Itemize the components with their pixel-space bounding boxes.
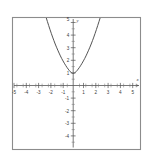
y-tick-label: 2 bbox=[67, 58, 70, 63]
x-tick-label: -1 bbox=[61, 90, 66, 95]
coordinate-plane-svg: -5 -4 -3 -2 -1 1 2 3 4 5 5 4 3 2 1 -1 -2… bbox=[0, 0, 153, 166]
x-tick-label: 4 bbox=[119, 90, 122, 95]
y-tick-label: -1 bbox=[65, 96, 70, 101]
y-tick-label: 3 bbox=[67, 46, 70, 51]
x-tick-label: -3 bbox=[37, 90, 42, 95]
y-tick-label: -3 bbox=[65, 121, 70, 126]
plot-frame bbox=[13, 18, 141, 150]
x-tick-label: 2 bbox=[95, 90, 98, 95]
x-tick-label: -4 bbox=[24, 90, 29, 95]
y-axis-top-label: 5 bbox=[67, 17, 70, 22]
x-tick-label: 1 bbox=[82, 90, 85, 95]
y-tick-label: 1 bbox=[67, 71, 70, 76]
x-tick-label: -5 bbox=[12, 90, 17, 95]
graph-container: -5 -4 -3 -2 -1 1 2 3 4 5 5 4 3 2 1 -1 -2… bbox=[0, 0, 153, 166]
x-tick-label: -2 bbox=[49, 90, 54, 95]
y-tick-label: -2 bbox=[65, 109, 70, 114]
x-tick-label: 5 bbox=[131, 90, 134, 95]
x-tick-label: 3 bbox=[107, 90, 110, 95]
y-tick-label: -4 bbox=[65, 134, 70, 139]
y-tick-label: 4 bbox=[67, 33, 70, 38]
